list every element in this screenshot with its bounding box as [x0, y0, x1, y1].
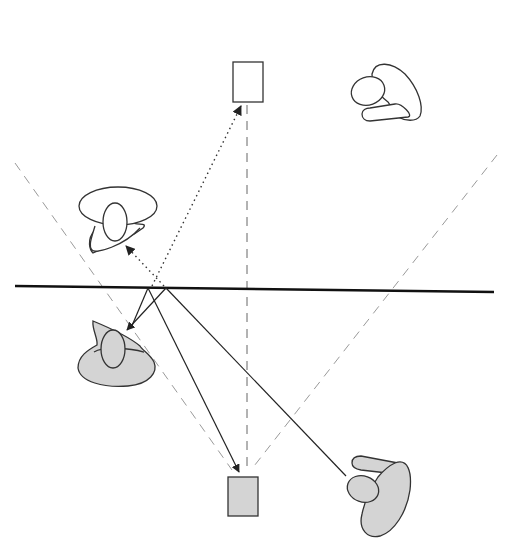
solid-rays	[127, 288, 346, 476]
real-box-object	[228, 477, 258, 516]
virtual-ray-to-virtual-head	[126, 246, 164, 286]
real-head-right-object	[344, 456, 411, 537]
virtual-ray-to-virtual-box	[152, 106, 241, 286]
ray-left-head-to-mirror	[131, 288, 148, 328]
virtual-box-image	[233, 62, 263, 102]
diagram-canvas: Mirror reflection diagram: observers and…	[0, 0, 522, 554]
real-head-left-object	[78, 321, 155, 386]
ray-mirror-to-real-box	[148, 288, 239, 472]
virtual-head-left-image	[79, 187, 157, 253]
mirror-line	[15, 286, 494, 292]
virtual-head-right-image	[347, 64, 421, 121]
right-diagonal-guide-line	[251, 155, 497, 470]
ray-right-head-to-mirror	[166, 288, 346, 476]
